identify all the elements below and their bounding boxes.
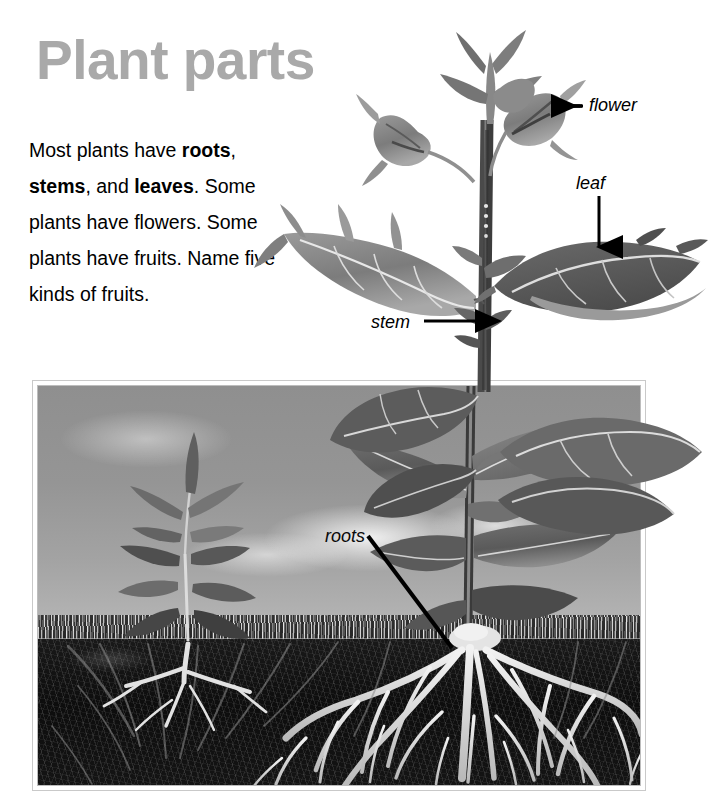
photo-content: [38, 386, 640, 785]
photo-frame-border: [37, 385, 641, 786]
root-system: [254, 623, 640, 785]
stem-node-leaf: [452, 246, 526, 348]
upper-right-leaf: [474, 228, 708, 320]
flower-bud-left: [356, 94, 474, 186]
page-canvas: Plant parts Most plants have roots, stem…: [0, 0, 715, 805]
paragraph-text: ,: [231, 139, 236, 161]
paragraph-bold-term: roots: [182, 139, 231, 161]
paragraph-text: Most plants have: [29, 139, 182, 161]
intro-paragraph: Most plants have roots, stems, and leave…: [29, 132, 284, 312]
page-title: Plant parts: [36, 33, 315, 88]
label-stem: stem: [371, 313, 410, 331]
main-stem: [484, 120, 488, 392]
paragraph-bold-term: stems: [29, 175, 85, 197]
label-leaf: leaf: [576, 174, 605, 192]
flower-bud-right: [490, 80, 586, 176]
paragraph-bold-term: leaves: [134, 175, 194, 197]
flower-buds-top: [356, 30, 586, 186]
label-roots: roots: [325, 527, 365, 545]
plant-photograph: [33, 381, 645, 790]
paragraph-text: , and: [85, 175, 134, 197]
upper-left-leaf: [254, 204, 484, 316]
photo-artwork: [38, 386, 640, 785]
seedling-left: [118, 432, 256, 641]
label-flower: flower: [589, 96, 637, 114]
photo-leaves: [344, 422, 618, 630]
